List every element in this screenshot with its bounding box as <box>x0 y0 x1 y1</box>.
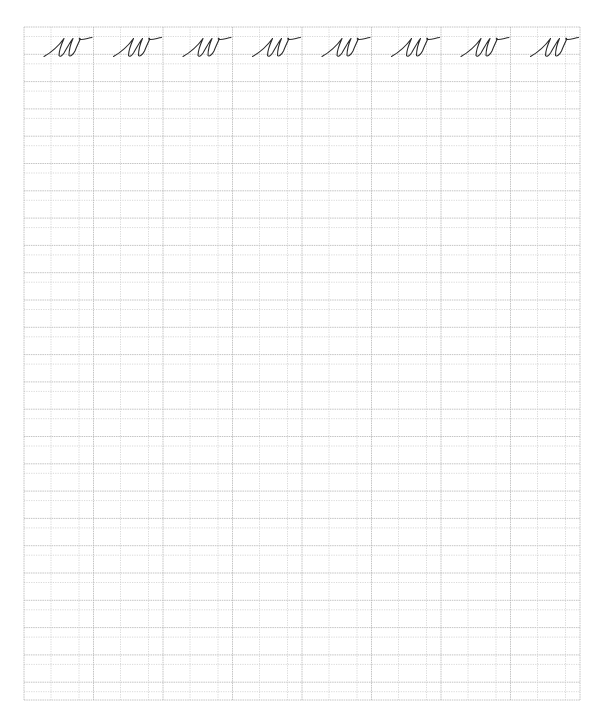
vertical-guide-lines <box>24 27 580 700</box>
handwriting-worksheet: w <box>0 0 604 723</box>
example-glyph-row <box>44 38 579 57</box>
practice-grid <box>0 0 604 723</box>
